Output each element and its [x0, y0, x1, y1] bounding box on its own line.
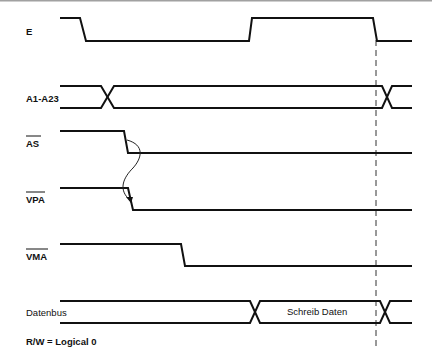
label-a1-a23: A1-A23 [26, 93, 59, 104]
label-vpa: VPA [26, 194, 45, 205]
waveform-vpa [60, 188, 412, 210]
waveform-e [60, 18, 412, 41]
label-as: AS [26, 138, 39, 149]
footnote: R/W = Logical 0 [26, 336, 96, 347]
label-vma: VMA [26, 251, 47, 262]
label-e: E [26, 26, 32, 37]
waveform-vma [60, 244, 412, 266]
waveform-a1-a23 [60, 86, 412, 108]
label-datenbus: Datenbus [26, 307, 67, 318]
timing-diagram: E A1-A23 AS VPA VMA Datenbus R/W = Logic… [0, 0, 432, 353]
waveform-datenbus [60, 301, 412, 323]
datenbus-data-label: Schreib Daten [287, 306, 347, 317]
waveform-as [60, 131, 412, 153]
causal-arrow [123, 140, 140, 203]
